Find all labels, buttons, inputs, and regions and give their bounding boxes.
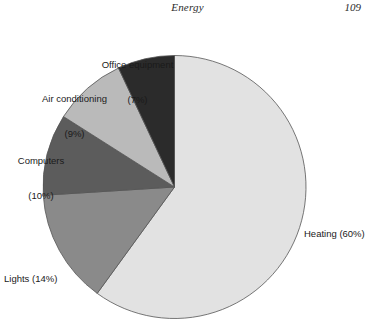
pie-label-lights-name: Lights (14%) (4, 273, 94, 285)
pie-label-air-conditioning-name: Air conditioning (22, 93, 127, 105)
pie-label-heating: Heating (60%) (304, 205, 375, 263)
pie-label-computers: Computers (10%) (2, 132, 80, 224)
pie-label-office-equipment-name: Office equipment (85, 59, 190, 71)
pie-label-computers-name: Computers (2, 155, 80, 167)
pie-label-heating-name: Heating (60%) (304, 228, 375, 240)
pie-chart-figure: Office equipment (7%) Air conditioning (… (0, 0, 375, 330)
pie-label-lights: Lights (14%) (4, 250, 94, 308)
pie-label-computers-percent: (10%) (2, 190, 80, 202)
